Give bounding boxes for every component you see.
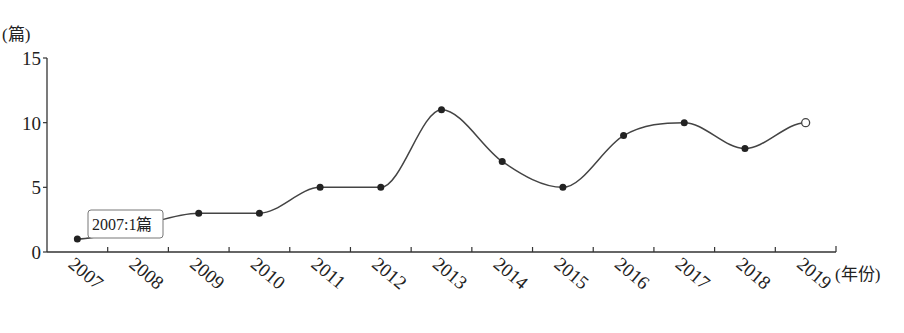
data-point[interactable] — [741, 145, 748, 152]
series-line-group — [77, 110, 805, 239]
line-chart: 0510152007200820092010201120122013201420… — [0, 0, 904, 333]
tooltip: 2007:1篇 — [88, 210, 163, 238]
x-tick-label: 2008 — [125, 253, 168, 294]
data-point[interactable] — [74, 236, 81, 243]
x-tick-label: 2011 — [308, 253, 350, 293]
x-tick-label: 2012 — [368, 253, 411, 294]
axes: 0510152007200820092010201120122013201420… — [22, 48, 836, 294]
x-tick-label: 2010 — [247, 253, 290, 294]
x-tick-label: 2015 — [550, 253, 593, 294]
x-tick-label: 2016 — [611, 253, 654, 294]
data-point[interactable] — [499, 158, 506, 165]
data-point[interactable] — [195, 210, 202, 217]
series-line — [77, 110, 805, 239]
x-tick-label: 2009 — [186, 253, 229, 294]
x-tick-label: 2017 — [672, 253, 715, 294]
data-point[interactable] — [620, 132, 627, 139]
y-tick-label: 10 — [22, 113, 41, 134]
x-tick-label: 2019 — [793, 253, 836, 294]
x-tick-label: 2007 — [65, 253, 108, 294]
y-axis-unit-label: (篇) — [2, 25, 30, 44]
y-tick-label: 5 — [32, 177, 42, 198]
data-point[interactable] — [377, 184, 384, 191]
y-tick-label: 0 — [32, 242, 42, 263]
data-point-open[interactable] — [802, 119, 810, 127]
data-point[interactable] — [256, 210, 263, 217]
x-axis-unit-label: (年份) — [835, 265, 880, 284]
x-tick-label: 2014 — [490, 253, 533, 294]
data-point[interactable] — [559, 184, 566, 191]
data-point[interactable] — [317, 184, 324, 191]
tooltip-text: 2007:1篇 — [92, 216, 152, 233]
y-tick-label: 15 — [22, 48, 41, 69]
data-point[interactable] — [438, 106, 445, 113]
x-tick-label: 2018 — [732, 253, 775, 294]
data-point[interactable] — [681, 119, 688, 126]
x-tick-label: 2013 — [429, 253, 472, 294]
